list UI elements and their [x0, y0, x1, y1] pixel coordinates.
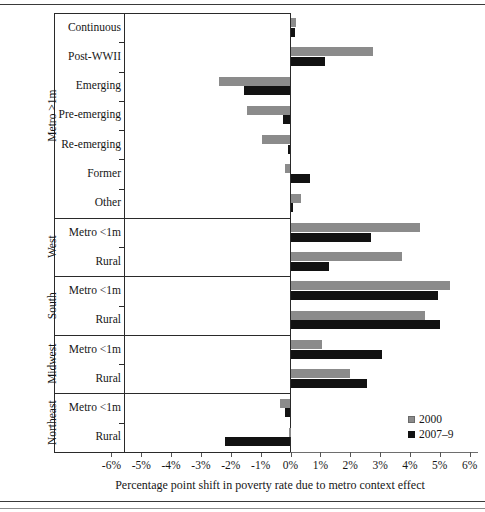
x-axis-tick [380, 452, 381, 457]
group-spine-inner [124, 393, 125, 452]
bar-2007-9 [225, 437, 291, 446]
y-axis-category-label: Metro <1m [6, 226, 124, 238]
bar-2000 [280, 399, 290, 408]
y-axis-category-label: Rural [6, 313, 124, 325]
y-axis-category-label: Metro <1m [6, 284, 124, 296]
group-spine-inner [124, 276, 125, 335]
x-axis-tick [291, 452, 292, 457]
group-spine-inner [124, 335, 125, 394]
y-axis-category-label: Continuous [6, 21, 124, 33]
bar-2007-9 [291, 320, 440, 329]
figure-container: -6%-5%-4%-3%-2%-1%0%1%2%3%4%5%6%Continuo… [0, 0, 485, 512]
bar-2007-9 [291, 350, 382, 359]
bar-2000 [219, 77, 291, 86]
bar-2000 [291, 18, 297, 27]
bar-2000 [291, 252, 403, 261]
bar-2000 [291, 281, 451, 290]
group-divider-rule [54, 13, 290, 14]
bar-2000 [291, 47, 373, 56]
bar-2007-9 [291, 203, 294, 212]
bar-2007-9 [291, 57, 325, 66]
y-axis-category-label: Re-emerging [6, 138, 124, 150]
x-axis-tick [410, 452, 411, 457]
y-axis-category-label: Rural [6, 255, 124, 267]
x-axis-tick-label: 6% [450, 459, 485, 471]
legend-swatch-2000 [408, 416, 415, 423]
group-divider-rule [54, 393, 290, 394]
y-axis-group-label-text: Northeast [46, 393, 58, 452]
group-divider-rule [54, 276, 290, 277]
legend-item-2007-9: 2007–9 [408, 427, 454, 442]
bar-2000 [247, 106, 290, 115]
bar-2007-9 [291, 174, 310, 183]
y-axis-category-label: Metro <1m [6, 401, 124, 413]
y-axis-category-label: Rural [6, 372, 124, 384]
x-axis-title: Percentage point shift in poverty rate d… [60, 478, 480, 493]
bar-2000 [291, 369, 351, 378]
legend-label-2000: 2000 [419, 412, 442, 427]
y-axis-category-label: Rural [6, 430, 124, 442]
bar-2007-9 [291, 379, 367, 388]
y-axis-category-label: Pre-emerging [6, 108, 124, 120]
bar-2000 [291, 340, 322, 349]
x-axis-tick [440, 452, 441, 457]
y-axis-category-label: Other [6, 196, 124, 208]
y-axis-category-label: Metro <1m [6, 343, 124, 355]
y-axis-group-label-text: Midwest [46, 335, 58, 394]
x-axis-tick [320, 452, 321, 457]
bar-2000 [289, 428, 291, 437]
bar-2007-9 [291, 291, 439, 300]
group-divider-rule [54, 335, 290, 336]
bar-2007-9 [288, 145, 291, 154]
y-axis-group-label-text: Metro >1m [46, 13, 58, 218]
chart-legend: 2000 2007–9 [408, 412, 454, 442]
bar-2007-9 [244, 86, 290, 95]
group-spine-inner [124, 13, 125, 218]
group-spine-inner [124, 218, 125, 277]
legend-swatch-2007-9 [408, 431, 415, 438]
y-axis-category-label: Emerging [6, 79, 124, 91]
y-axis-category-label: Former [6, 167, 124, 179]
bar-2007-9 [285, 408, 291, 417]
y-axis-group-label-text: West [46, 218, 58, 277]
bar-2007-9 [291, 262, 330, 271]
bar-2000 [291, 223, 421, 232]
bar-2000 [285, 164, 291, 173]
bar-2000 [262, 135, 290, 144]
y-axis-category-label: Post-WWII [6, 50, 124, 62]
group-divider-rule [54, 218, 290, 219]
group-divider-rule [54, 452, 290, 453]
x-axis-tick [350, 452, 351, 457]
legend-item-2000: 2000 [408, 412, 454, 427]
bar-2000 [291, 194, 301, 203]
legend-label-2007-9: 2007–9 [419, 427, 454, 442]
bar-2007-9 [291, 28, 295, 37]
bar-2007-9 [283, 115, 290, 124]
y-axis-group-label-text: South [46, 276, 58, 335]
bar-2007-9 [291, 233, 372, 242]
x-axis-tick [470, 452, 471, 457]
bar-2000 [291, 311, 425, 320]
